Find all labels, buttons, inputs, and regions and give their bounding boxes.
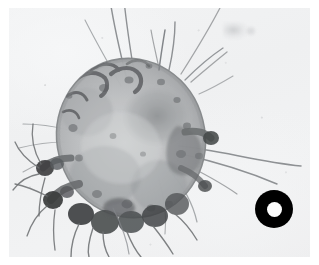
scale-ring-marker: [255, 190, 293, 228]
scale-ring-marker-core: [267, 202, 282, 217]
microscope-field: [9, 8, 310, 257]
photomicrograph-figure: [0, 0, 319, 265]
